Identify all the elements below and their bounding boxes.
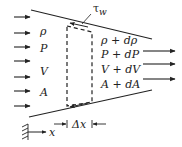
inlet-velocity-label: V [40, 65, 49, 78]
outlet-area-label: A + dA [100, 78, 140, 91]
inlet-pressure-label: P [39, 42, 48, 55]
outlet-pressure-label: P + dP [100, 48, 140, 61]
duct-control-volume-diagram: τw ρ P V A ρ + dρ P + dP V + dV A + dA x… [0, 0, 182, 147]
wall-shear-label: τw [93, 2, 107, 17]
delta-x-label: Δx [71, 118, 87, 131]
shear-leader-line [82, 14, 91, 24]
control-volume [67, 26, 92, 106]
x-axis-label: x [49, 126, 56, 139]
outlet-flow-arrows [143, 51, 175, 79]
ground-hatch-icon [22, 124, 28, 140]
inlet-flow-arrows [14, 17, 30, 106]
outlet-density-label: ρ + dρ [100, 34, 138, 47]
outlet-velocity-label: V + dV [101, 63, 141, 76]
inlet-area-label: A [39, 86, 48, 99]
inlet-density-label: ρ [39, 25, 47, 38]
wall-shear-arrows [70, 23, 88, 107]
